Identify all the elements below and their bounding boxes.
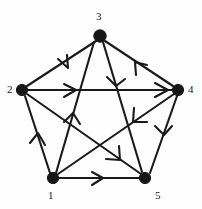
edge-1-to-5 [59,172,139,185]
vertex-dot-3 [94,30,106,42]
edge-2-to-5 [27,94,141,174]
directed-graph-figure: 3 2 4 1 5 [0,0,202,209]
graph-canvas [0,0,202,209]
vertex-dot-2 [16,84,27,95]
arrowhead-icon [30,133,45,145]
vertex-label-1: 1 [48,190,54,201]
arrowhead-icon [107,77,125,86]
vertex-label-4: 4 [188,84,194,95]
vertex-label-3: 3 [96,11,102,22]
vertex-dot-5 [139,172,150,183]
vertex-label-5: 5 [155,190,161,201]
edge-line [27,94,141,174]
vertex-dot-4 [172,84,183,95]
vertex-label-2: 2 [7,84,13,95]
edge-group [25,41,177,185]
edge-3-to-2 [27,41,96,86]
edge-2-to-4 [28,83,172,97]
arrowhead-icon [155,126,172,135]
vertex-group [16,30,183,184]
vertex-dot-1 [47,172,58,183]
